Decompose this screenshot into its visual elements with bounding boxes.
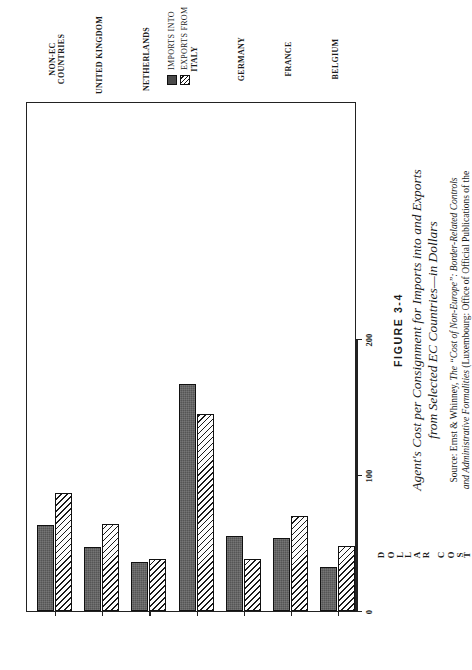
bar-group xyxy=(273,101,313,611)
bar-group xyxy=(131,101,171,611)
source-prefix: Source: Ernst & Whinney, xyxy=(449,380,459,482)
axis-tick-100 xyxy=(356,475,362,476)
bar-group xyxy=(37,101,77,611)
solid-square-icon xyxy=(167,75,177,85)
bar-group xyxy=(320,101,360,611)
legend-label-exports: EXPORTS FROM xyxy=(180,7,190,70)
category-tick xyxy=(149,611,150,616)
legend-item-imports: IMPORTS INTO xyxy=(166,7,177,85)
bar-exports-germany xyxy=(244,559,261,611)
bar-imports-germany xyxy=(226,536,243,611)
bar-exports-united-kingdom xyxy=(102,524,119,611)
category-label-line: COUNTRIES xyxy=(57,24,66,94)
value-axis: 0100200 xyxy=(356,340,358,612)
bar-group xyxy=(179,101,219,611)
chart-legend: IMPORTS INTO EXPORTS FROM xyxy=(166,7,190,85)
category-label-line: NON-EC xyxy=(48,24,57,94)
axis-tick-label-200: 200 xyxy=(364,334,374,347)
category-tick xyxy=(55,611,56,616)
hatched-square-icon xyxy=(180,75,190,85)
axis-tick-200 xyxy=(356,339,362,340)
category-label-italy: ITALY xyxy=(190,24,199,94)
category-label-belgium: BELGIUM xyxy=(331,24,340,94)
bar-imports-netherlands xyxy=(131,562,148,611)
category-label-non-ec-countries: NON-ECCOUNTRIES xyxy=(48,24,66,94)
category-tick xyxy=(338,611,339,616)
legend-item-exports: EXPORTS FROM xyxy=(179,7,190,85)
figure-title-line1: Agent's Cost per Consignment for Imports… xyxy=(409,50,425,610)
bar-imports-non-ec-countries xyxy=(37,525,54,611)
figure-title-line2: from Selected EC Countries—in Dollars xyxy=(425,50,441,610)
axis-tick-label-0: 0 xyxy=(364,610,374,614)
source-title-part2: and Administrative Formalities xyxy=(461,370,471,489)
source-suffix: (Luxembourg: Office of Official Publicat… xyxy=(461,171,471,370)
axis-tick-label-100: 100 xyxy=(364,470,374,483)
category-label-germany: GERMANY xyxy=(237,24,246,94)
bar-group xyxy=(226,101,266,611)
category-tick xyxy=(102,611,103,616)
legend-label-imports: IMPORTS INTO xyxy=(167,11,177,70)
axis-tick-0 xyxy=(356,611,362,612)
bar-imports-belgium xyxy=(320,567,337,611)
category-tick xyxy=(291,611,292,616)
bar-exports-italy xyxy=(197,414,214,611)
bar-imports-united-kingdom xyxy=(84,547,101,611)
figure-title: Agent's Cost per Consignment for Imports… xyxy=(409,50,441,610)
figure-caption: FIGURE 3-4 Agent's Cost per Consignment … xyxy=(392,50,472,610)
bar-exports-netherlands xyxy=(149,559,166,611)
bar-imports-italy xyxy=(179,384,196,611)
category-label-united-kingdom: UNITED KINGDOM xyxy=(95,24,104,94)
bar-exports-belgium xyxy=(338,546,355,611)
bar-group xyxy=(84,101,124,611)
category-tick xyxy=(197,611,198,616)
figure-source: Source: Ernst & Whinney, The “Cost of No… xyxy=(448,50,472,610)
plot-area xyxy=(26,102,356,612)
source-title-part1: The “Cost of Non-Europe”: Border-Related… xyxy=(449,177,459,380)
bar-exports-france xyxy=(291,516,308,611)
category-label-france: FRANCE xyxy=(284,24,293,94)
bar-imports-france xyxy=(273,538,290,611)
category-tick xyxy=(244,611,245,616)
figure-number: FIGURE 3-4 xyxy=(392,50,404,610)
bar-exports-non-ec-countries xyxy=(55,493,72,611)
category-label-netherlands: NETHERLANDS xyxy=(142,24,151,94)
